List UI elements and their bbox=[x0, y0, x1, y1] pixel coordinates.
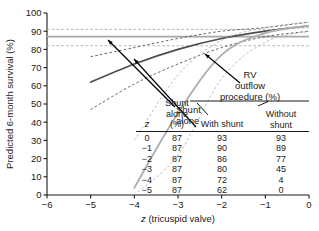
x-tick-label: −4 bbox=[129, 199, 140, 210]
table-row: −2878677 bbox=[142, 154, 286, 164]
cell-without-shunt: 4 bbox=[278, 175, 283, 185]
table-row: −1879089 bbox=[142, 143, 286, 153]
cell-shunt-alone: 87 bbox=[172, 143, 182, 153]
ci-upper-rv-outflow-procedure-with-shunt bbox=[91, 22, 309, 57]
cell-without-shunt: 0 bbox=[278, 185, 283, 195]
x-tick-label: 0 bbox=[306, 199, 311, 210]
cell-z: −3 bbox=[142, 164, 152, 174]
ci-upper-shunt-alone bbox=[47, 28, 309, 30]
y-tick-label: 60 bbox=[31, 80, 42, 91]
y-tick-label: 80 bbox=[31, 44, 42, 55]
x-tick-label: −1 bbox=[260, 199, 271, 210]
x-tick-label: −6 bbox=[42, 199, 53, 210]
cell-with-shunt: 93 bbox=[217, 133, 227, 143]
table-row: −487724 bbox=[142, 175, 284, 185]
cell-z: −2 bbox=[142, 154, 152, 164]
x-tick-label: −2 bbox=[216, 199, 227, 210]
cell-z: 0 bbox=[144, 133, 149, 143]
table-header-z: z bbox=[144, 119, 150, 129]
table-row: −587620 bbox=[142, 185, 284, 195]
cell-with-shunt: 86 bbox=[217, 154, 227, 164]
y-tick-label: 70 bbox=[31, 62, 42, 73]
cell-z: −1 bbox=[142, 143, 152, 153]
cell-without-shunt: 89 bbox=[276, 143, 286, 153]
cell-shunt-alone: 87 bbox=[172, 175, 182, 185]
arrow-shunt-alone bbox=[108, 40, 175, 107]
table-row: −3878045 bbox=[142, 164, 286, 174]
cell-with-shunt: 62 bbox=[217, 185, 227, 195]
y-tick-label: 20 bbox=[31, 153, 42, 164]
chart-figure: 1009080706050403020100−6−5−4−3−2−10Predi… bbox=[0, 0, 319, 231]
y-tick-label: 100 bbox=[26, 7, 42, 18]
table-header-without-shunt: Withoutshunt bbox=[266, 109, 297, 130]
x-tick-label: −5 bbox=[85, 199, 96, 210]
table-group-leader bbox=[258, 102, 268, 107]
data-table: zShuntalone(%)With shuntWithoutshunt0879… bbox=[136, 98, 309, 195]
cell-shunt-alone: 87 bbox=[172, 185, 182, 195]
x-axis-title: z (tricuspid valve) bbox=[140, 213, 215, 224]
x-tick-label: −3 bbox=[173, 199, 184, 210]
y-tick-label: 40 bbox=[31, 117, 42, 128]
cell-shunt-alone: 87 bbox=[172, 154, 182, 164]
cell-z: −4 bbox=[142, 175, 152, 185]
cell-z: −5 bbox=[142, 185, 152, 195]
table-header-with-shunt: With shunt bbox=[201, 119, 244, 129]
y-tick-label: 50 bbox=[31, 98, 42, 109]
y-tick-label: 90 bbox=[31, 26, 42, 37]
cell-with-shunt: 90 bbox=[217, 143, 227, 153]
y-tick-label: 30 bbox=[31, 135, 42, 146]
cell-shunt-alone: 87 bbox=[172, 164, 182, 174]
y-tick-label: 10 bbox=[31, 171, 42, 182]
cell-shunt-alone: 87 bbox=[172, 133, 182, 143]
cell-without-shunt: 45 bbox=[276, 164, 286, 174]
survival-chart-svg: 1009080706050403020100−6−5−4−3−2−10Predi… bbox=[0, 0, 319, 231]
cell-with-shunt: 72 bbox=[217, 175, 227, 185]
y-axis-title: Predicted 6-month survival (%) bbox=[4, 39, 15, 169]
cell-with-shunt: 80 bbox=[217, 164, 227, 174]
cell-without-shunt: 77 bbox=[276, 154, 286, 164]
x-axis-title-rest: (tricuspid valve) bbox=[146, 213, 215, 224]
cell-without-shunt: 93 bbox=[276, 133, 286, 143]
